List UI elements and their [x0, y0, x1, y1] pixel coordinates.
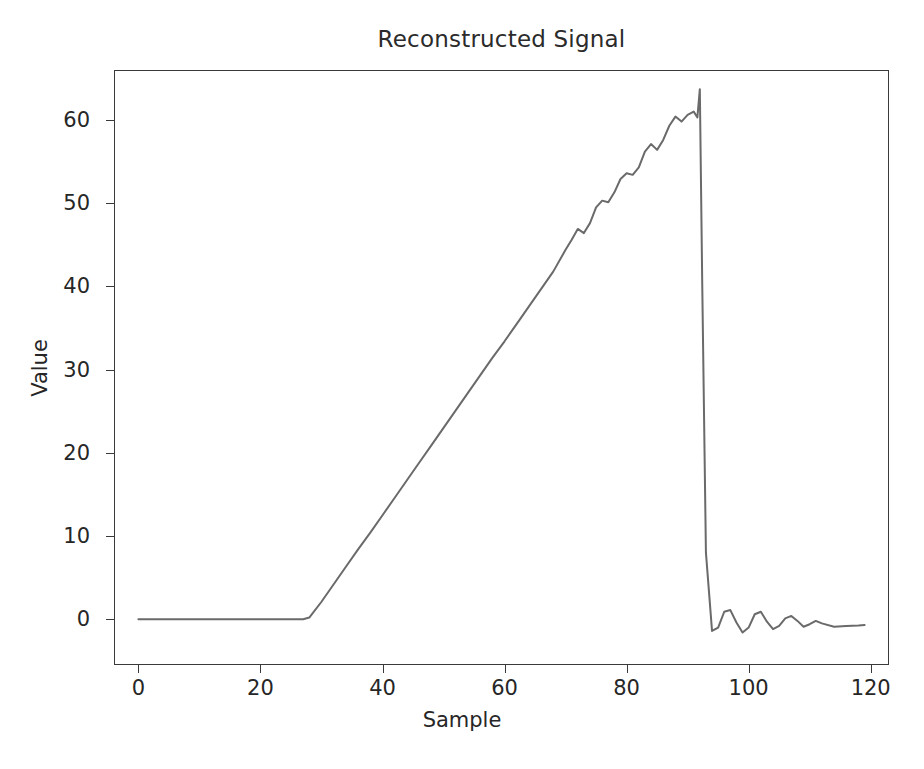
x-axis-label: Sample	[0, 708, 924, 732]
x-tick-mark	[383, 665, 384, 673]
x-tick-label: 100	[729, 676, 769, 700]
x-tick-mark	[138, 665, 139, 673]
x-axis-ticks: 020406080100120	[0, 0, 924, 769]
x-tick-label: 40	[369, 676, 396, 700]
x-tick-label: 20	[247, 676, 274, 700]
x-tick-mark	[627, 665, 628, 673]
x-tick-mark	[871, 665, 872, 673]
x-tick-label: 60	[491, 676, 518, 700]
y-axis-label: Value	[28, 339, 52, 397]
x-tick-mark	[749, 665, 750, 673]
x-tick-label: 0	[132, 676, 145, 700]
x-tick-mark	[260, 665, 261, 673]
x-tick-mark	[505, 665, 506, 673]
x-tick-label: 80	[613, 676, 640, 700]
x-tick-label: 120	[851, 676, 891, 700]
chart-figure: Reconstructed Signal 0102030405060 02040…	[0, 0, 924, 769]
